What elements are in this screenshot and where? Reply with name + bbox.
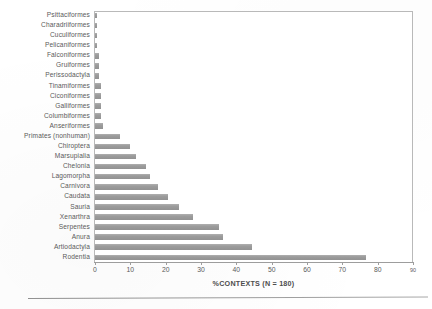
bar <box>95 224 219 230</box>
x-tick-label: 30 <box>186 266 216 273</box>
x-tick-label: 40 <box>221 266 251 273</box>
bar <box>95 214 193 220</box>
bar <box>95 13 97 19</box>
bar <box>95 43 97 49</box>
bar <box>95 113 101 119</box>
category-label: Primates (nonhuman) <box>24 131 90 140</box>
category-label: Marsupialia <box>55 151 90 160</box>
category-label: Artiodactyla <box>54 242 90 251</box>
x-tick-mark <box>201 262 202 265</box>
bar <box>95 33 97 39</box>
x-tick-label: 70 <box>327 266 357 273</box>
bar-row: Serpentes <box>0 223 432 233</box>
x-tick-mark <box>166 262 167 265</box>
bar <box>95 255 366 261</box>
bar <box>95 93 101 99</box>
bar <box>95 204 179 210</box>
x-tick-mark <box>272 262 273 265</box>
x-tick-label: 10 <box>115 266 145 273</box>
category-label: Xenarthra <box>60 212 90 221</box>
bar <box>95 174 150 180</box>
bar <box>95 103 101 109</box>
bar <box>95 23 97 29</box>
category-label: Chiroptera <box>58 141 90 150</box>
category-label: Anura <box>72 232 90 241</box>
x-axis-title: %CONTEXTS (N = 180) <box>94 279 413 288</box>
page-divider-rule <box>28 296 428 299</box>
x-tick-label: 60 <box>292 266 322 273</box>
bar-row: Caudata <box>0 192 432 202</box>
bar-rows-container: PsittaciformesCharadriiformesCuculiforme… <box>0 11 432 263</box>
category-label: Charadriiformes <box>41 20 90 29</box>
bar <box>95 63 99 69</box>
category-label: Columbiformes <box>44 111 90 120</box>
category-label: Caudata <box>64 191 90 200</box>
x-tick-label: 20 <box>151 266 181 273</box>
x-tick-mark <box>307 262 308 265</box>
category-label: Anseriformes <box>50 121 90 130</box>
category-label: Galliformes <box>55 101 90 110</box>
bar <box>95 144 130 150</box>
x-tick-mark <box>413 262 414 265</box>
category-label: Tinamiformes <box>49 81 90 90</box>
category-label: Lagomorpha <box>52 171 90 180</box>
category-label: Rodentia <box>63 252 90 261</box>
bar <box>95 83 101 89</box>
bar <box>95 154 136 160</box>
category-label: Sauria <box>70 202 90 211</box>
x-tick-mark <box>95 262 96 265</box>
x-tick-mark <box>378 262 379 265</box>
bar <box>95 123 103 129</box>
x-tick-label: 0 <box>80 266 110 273</box>
x-tick-mark <box>342 262 343 265</box>
bar <box>95 234 223 240</box>
category-label: Serpentes <box>59 222 90 231</box>
category-label: Ciconiformes <box>50 91 90 100</box>
category-label: Gruiformes <box>56 60 90 69</box>
bar <box>95 194 168 200</box>
bar <box>95 164 146 170</box>
category-label: Carnivora <box>60 181 90 190</box>
bar <box>95 134 120 140</box>
bar-chart-figure: PsittaciformesCharadriiformesCuculiforme… <box>0 0 432 309</box>
category-label: Cuculiformes <box>50 30 90 39</box>
x-tick-mark <box>130 262 131 265</box>
category-label: Perissodactyla <box>45 70 90 79</box>
bar <box>95 73 99 79</box>
x-tick-label: 50 <box>257 266 287 273</box>
x-tick-label: 80 <box>363 266 393 273</box>
x-tick-mark <box>236 262 237 265</box>
bar <box>95 53 99 59</box>
x-tick-label: 90 <box>398 267 428 273</box>
bar <box>95 184 158 190</box>
bar <box>95 244 252 250</box>
category-label: Chelonia <box>63 161 90 170</box>
category-label: Pelicaniformes <box>45 40 90 49</box>
category-label: Psittaciformes <box>47 10 90 19</box>
category-label: Falconiformes <box>47 50 90 59</box>
x-axis-line <box>94 262 413 263</box>
